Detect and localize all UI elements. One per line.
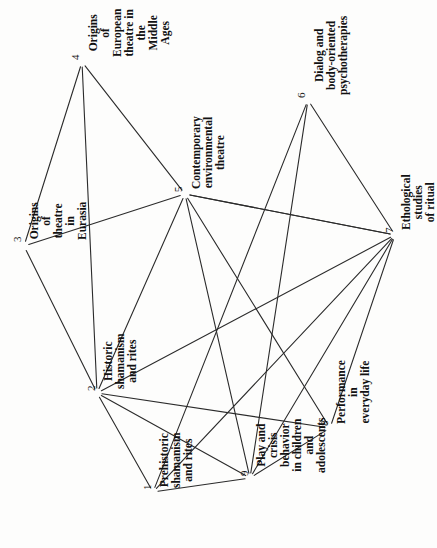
graph-edge — [311, 104, 393, 231]
node-label: Ethological studies of ritual — [401, 174, 437, 230]
graph-edge — [186, 199, 249, 473]
graph-edge — [99, 397, 150, 487]
node-label: Prehistoric shamanism and rites — [159, 432, 195, 488]
node-number: 5 — [172, 187, 184, 193]
node-number: 9 — [238, 471, 250, 477]
node-label: Dialog and body-oriented psychotherapies — [314, 16, 350, 95]
graph-edge — [188, 198, 328, 424]
node-label: Play and crisis behavior in children and… — [256, 417, 328, 473]
graph-edge — [85, 66, 182, 190]
graph-edges-layer — [0, 0, 437, 548]
node-label: Origins of European theatre in the Middl… — [88, 9, 172, 57]
graph-edge — [26, 250, 95, 388]
node-label: Origins of theatre in Eurasia — [29, 202, 89, 240]
diagram-canvas: 1Prehistoric shamanism and rites2Histori… — [0, 0, 437, 548]
node-number: 7 — [383, 228, 395, 234]
node-label: Performance in everyday life — [336, 360, 372, 424]
node-number: 2 — [85, 386, 97, 392]
node-number: 4 — [69, 55, 81, 61]
node-number: 6 — [295, 93, 307, 99]
node-label: Contemporary environmental theatre — [191, 116, 227, 189]
node-number: 1 — [141, 485, 153, 491]
graph-edge — [190, 195, 390, 234]
node-label: Historic shamanism and rites — [103, 333, 139, 389]
node-number: 3 — [11, 237, 23, 243]
